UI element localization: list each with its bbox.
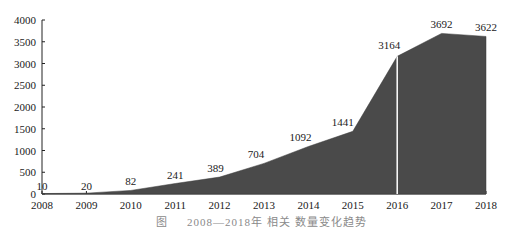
y-tick-label: 1500 [14,123,37,135]
y-tick-label: 3500 [14,36,37,48]
x-tick-label: 2010 [120,199,143,210]
figure-caption: 图 2008—2018年 相关 数量变化趋势 [0,213,522,227]
data-label: 704 [248,148,265,160]
data-label: 3692 [431,18,453,30]
data-label: 3622 [475,21,497,33]
x-tick-label: 2012 [209,199,231,210]
x-tick-label: 2013 [253,199,276,210]
area-series [42,33,486,194]
y-tick-label: 4000 [14,14,37,26]
x-tick-label: 2011 [164,199,186,210]
area-fill [42,33,486,194]
y-axis: 05001000150020002500300035004000 [14,14,45,200]
y-tick-label: 2500 [14,79,37,91]
data-label: 3164 [378,39,401,51]
data-label: 1092 [289,131,311,143]
data-label: 241 [167,169,184,181]
y-tick-label: 500 [20,166,37,178]
x-tick-label: 2009 [75,199,98,210]
y-tick-label: 1000 [14,145,37,157]
data-label: 1441 [332,116,354,128]
x-tick-label: 2016 [386,199,409,210]
y-tick-label: 3000 [14,58,37,70]
x-tick-label: 2018 [475,199,498,210]
x-tick-label: 2014 [297,199,320,210]
data-label: 20 [81,180,93,192]
y-tick-label: 2000 [14,101,37,113]
data-label: 82 [125,175,136,187]
data-label: 10 [37,180,49,192]
area-chart: 05001000150020002500300035004000 2008200… [0,0,522,210]
x-tick-label: 2008 [31,199,54,210]
x-tick-label: 2017 [431,199,454,210]
x-tick-label: 2015 [342,199,365,210]
data-label: 389 [207,162,224,174]
